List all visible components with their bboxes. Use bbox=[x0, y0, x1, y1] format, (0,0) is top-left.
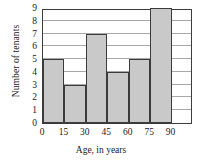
bar bbox=[107, 72, 128, 123]
y-tick-label: 2 bbox=[23, 93, 37, 103]
y-tick-label: 5 bbox=[23, 55, 37, 65]
bar bbox=[129, 59, 150, 123]
bar bbox=[64, 85, 85, 123]
y-tick-label: 9 bbox=[23, 4, 37, 14]
bar bbox=[43, 59, 64, 123]
x-axis-title: Age, in years bbox=[0, 145, 202, 155]
y-tick-label: 3 bbox=[23, 81, 37, 91]
y-tick-label: 4 bbox=[23, 68, 37, 78]
x-tick-label: 90 bbox=[161, 127, 181, 137]
x-tick-label: 0 bbox=[32, 127, 52, 137]
x-tick-label: 15 bbox=[53, 127, 73, 137]
y-tick-label: 8 bbox=[23, 17, 37, 27]
bar bbox=[86, 34, 107, 123]
y-tick-label: 6 bbox=[23, 42, 37, 52]
x-tick-label: 45 bbox=[96, 127, 116, 137]
y-axis-title: Number of tenants bbox=[11, 1, 21, 121]
y-tick-label: 1 bbox=[23, 106, 37, 116]
x-tick-label: 60 bbox=[118, 127, 138, 137]
histogram-chart: Number of tenants 0123456789 01530456075… bbox=[0, 0, 202, 164]
x-tick-label: 75 bbox=[139, 127, 159, 137]
plot-area bbox=[42, 9, 192, 124]
bar bbox=[150, 8, 171, 123]
x-tick-label: 30 bbox=[75, 127, 95, 137]
y-tick-label: 7 bbox=[23, 30, 37, 40]
